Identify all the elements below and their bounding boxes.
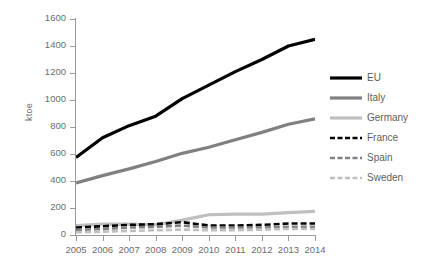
- y-tick-mark: [70, 100, 75, 101]
- series-lines: [76, 19, 315, 235]
- y-tick-label: 200: [18, 202, 66, 212]
- legend-swatch-icon: [330, 153, 362, 163]
- legend-label: EU: [367, 73, 381, 83]
- legend-label: Germany: [367, 113, 408, 123]
- y-tick-label: 1400: [18, 40, 66, 50]
- x-tick-mark: [235, 236, 236, 241]
- legend-label: Sweden: [367, 173, 403, 183]
- legend-item-sweden[interactable]: Sweden: [330, 168, 408, 188]
- legend-item-eu[interactable]: EU: [330, 68, 408, 88]
- y-tick-mark: [70, 127, 75, 128]
- legend-label: France: [367, 133, 398, 143]
- x-axis-spine: [75, 235, 316, 236]
- y-tick-mark: [70, 154, 75, 155]
- y-tick-mark: [70, 181, 75, 182]
- y-tick-label: 1200: [18, 67, 66, 77]
- x-tick-mark: [209, 236, 210, 241]
- legend-label: Italy: [367, 93, 385, 103]
- x-tick-mark: [182, 236, 183, 241]
- y-tick-label: 600: [18, 148, 66, 158]
- y-tick-mark: [70, 19, 75, 20]
- legend-item-italy[interactable]: Italy: [330, 88, 408, 108]
- y-tick-mark: [70, 235, 75, 236]
- y-tick-label: 800: [18, 121, 66, 131]
- chart-legend: EUItalyGermanyFranceSpainSweden: [330, 68, 408, 188]
- x-tick-mark: [315, 236, 316, 241]
- legend-swatch-icon: [330, 133, 362, 143]
- series-line-sweden: [76, 229, 315, 232]
- y-tick-mark: [70, 46, 75, 47]
- x-tick-mark: [76, 236, 77, 241]
- legend-item-germany[interactable]: Germany: [330, 108, 408, 128]
- series-line-italy: [76, 119, 315, 183]
- y-tick-label: 0: [18, 229, 66, 239]
- legend-swatch-icon: [330, 113, 362, 123]
- legend-swatch-icon: [330, 93, 362, 103]
- y-tick-mark: [70, 208, 75, 209]
- x-tick-mark: [262, 236, 263, 241]
- chart-figure: ktoe 02004006008001000120014001600 20052…: [0, 0, 421, 267]
- x-tick-mark: [156, 236, 157, 241]
- series-line-eu: [76, 39, 315, 157]
- legend-swatch-icon: [330, 173, 362, 183]
- legend-item-spain[interactable]: Spain: [330, 148, 408, 168]
- x-tick-label: 2014: [298, 245, 332, 255]
- y-tick-label: 400: [18, 175, 66, 185]
- x-tick-mark: [129, 236, 130, 241]
- x-tick-mark: [288, 236, 289, 241]
- legend-item-france[interactable]: France: [330, 128, 408, 148]
- y-tick-label: 1000: [18, 94, 66, 104]
- x-tick-mark: [103, 236, 104, 241]
- legend-label: Spain: [367, 153, 393, 163]
- y-tick-mark: [70, 73, 75, 74]
- y-tick-label: 1600: [18, 13, 66, 23]
- legend-swatch-icon: [330, 73, 362, 83]
- y-axis-label: ktoe: [24, 82, 34, 142]
- plot-area: [76, 19, 315, 235]
